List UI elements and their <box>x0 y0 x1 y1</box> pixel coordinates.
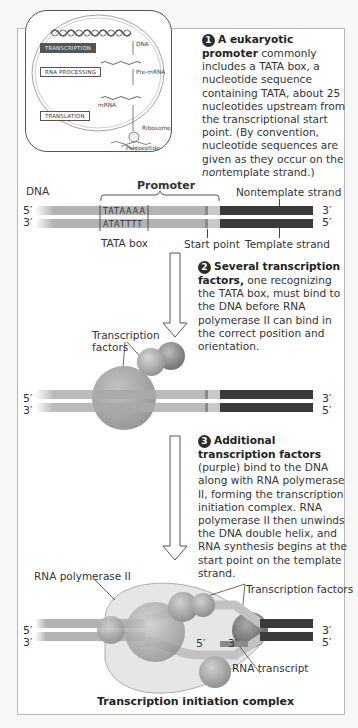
gene-expression-overview-inset: TRANSCRIPTION RNA PROCESSING TRANSLATION… <box>25 10 172 152</box>
start-point-arrow <box>207 229 208 238</box>
translation-box: TRANSLATION <box>40 111 90 121</box>
row3-5prime-right: 5′ <box>322 636 332 649</box>
promoter-bracket-icon <box>100 190 222 202</box>
tata-box-bottom-seq: ATATTTT <box>103 220 143 229</box>
inset-mrna-label: mRNA <box>98 102 116 108</box>
promoter-dna-duplex: TATAAAA ATATTTT <box>35 205 320 231</box>
step-2-number: 2 <box>198 261 211 274</box>
row1-3prime-left: 3′ <box>23 216 33 229</box>
inset-ribosome-label: Ribosome <box>142 125 171 131</box>
down-arrow-icon <box>162 435 188 561</box>
template-pointer <box>279 228 280 238</box>
step-1-number: 1 <box>202 34 215 47</box>
rna-processing-box: RNA PROCESSING <box>40 67 101 77</box>
step-3-description: 3Additional transcription factors (purpl… <box>198 434 350 580</box>
transcript-3prime: 3′ <box>228 637 238 650</box>
step-3-number: 3 <box>198 435 211 448</box>
transcription-box: TRANSCRIPTION <box>40 43 96 53</box>
transcript-5prime: 5′ <box>196 637 206 650</box>
tata-box-label: TATA box <box>101 237 148 249</box>
tf-bound-dna <box>35 340 320 445</box>
inset-polypeptide-label: Polypeptide <box>126 145 160 151</box>
inset-pre-mrna-label: Pre-mRNA <box>136 69 165 75</box>
complex-caption: Transcription initiation complex <box>97 695 294 708</box>
start-point-label: Start point <box>184 238 240 250</box>
row2-5prime-right: 5′ <box>322 404 332 417</box>
dna-label: DNA <box>26 185 49 197</box>
transcription-initiation-complex <box>35 575 320 700</box>
nontemplate-strand-label: Nontemplate strand <box>236 186 341 198</box>
rna-transcript-label: RNA transcript <box>232 662 308 674</box>
template-strand-label: Template strand <box>245 238 330 250</box>
row3-3prime-left: 3′ <box>23 636 33 649</box>
row2-3prime-left: 3′ <box>23 404 33 417</box>
down-arrow-icon <box>162 252 188 338</box>
tata-box-top-seq: TATAAAA <box>102 207 146 216</box>
step-1-description: 1A eukaryotic promoter commonly includes… <box>202 33 352 179</box>
step-3-heading: Additional transcription factors <box>198 434 321 460</box>
inset-dna-label: DNA <box>136 41 149 47</box>
row1-5prime-right: 5′ <box>322 216 332 229</box>
